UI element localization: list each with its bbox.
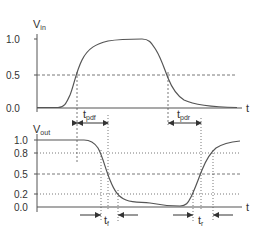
svg-text:tf: tf: [104, 214, 109, 227]
svg-text:tpdf: tpdf: [83, 108, 96, 122]
tr-annotation: tr: [173, 212, 233, 227]
vout-tick-1: 1.0: [14, 135, 28, 146]
vout-label: Vout: [33, 123, 50, 136]
output-plot: Vout t 1.0 0.8 0.5 0.2 0.0: [14, 123, 249, 222]
tpdf-annotation: tpdf: [77, 108, 108, 210]
vin-tick-0: 0.0: [6, 103, 20, 114]
vin-label: Vin: [33, 18, 46, 31]
vout-tick-05: 0.5: [14, 169, 28, 180]
vin-x-label: t: [246, 102, 249, 114]
tf-annotation: tf: [80, 212, 138, 227]
vin-tick-05: 0.5: [6, 70, 20, 81]
vout-tick-02: 0.2: [14, 189, 28, 200]
vin-waveform: [37, 39, 237, 108]
vout-tick-08: 0.8: [14, 148, 28, 159]
svg-text:tpdr: tpdr: [177, 108, 191, 122]
vin-tick-1: 1.0: [6, 34, 20, 45]
svg-text:tr: tr: [198, 214, 204, 227]
vout-tick-0: 0.0: [14, 202, 28, 213]
input-plot: Vin t 1.0 0.5 0.0: [6, 18, 249, 163]
tpdr-annotation: tpdr: [168, 108, 201, 210]
vout-x-label: t: [246, 201, 249, 213]
propagation-delay-diagram: Vin t 1.0 0.5 0.0 tpdf tpdr Vout t: [0, 0, 264, 232]
vout-waveform: [37, 140, 240, 206]
